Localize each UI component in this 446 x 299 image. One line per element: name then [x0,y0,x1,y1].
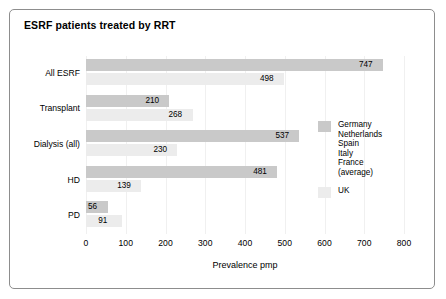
x-axis-title: Prevalence pmp [86,260,404,270]
x-axis-tick-label: 800 [397,238,411,248]
category-label: Dialysis (all) [14,139,80,149]
x-axis-tick-label: 0 [84,238,89,248]
chart-figure: ESRF patients treated by RRT 74749821026… [0,0,446,299]
x-axis-tick-label: 400 [238,238,252,248]
chart-legend: GermanyNetherlandsSpainItalyFrance(avera… [318,120,428,206]
legend-label-group: GermanyNetherlandsSpainItalyFrance(avera… [338,120,382,178]
legend-label-group: UK [338,186,349,196]
bar[interactable] [86,166,277,178]
legend-entry[interactable]: GermanyNetherlandsSpainItalyFrance(avera… [318,120,428,178]
bar-value-label: 481 [253,166,267,178]
legend-label: Germany [338,120,382,130]
legend-label: Italy [338,149,382,159]
legend-label: Netherlands [338,130,382,140]
bar-value-label: 268 [169,109,183,121]
bar-value-label: 139 [117,180,131,192]
bar[interactable] [86,180,141,192]
category-label: HD [14,175,80,185]
legend-entry[interactable]: UK [318,186,428,198]
category-label: PD [14,210,80,220]
bar-value-label: 537 [275,130,289,142]
x-axis-tick-label: 100 [119,238,133,248]
bar[interactable] [86,73,284,85]
legend-label: Spain [338,139,382,149]
legend-label: (average) [338,168,382,178]
bar-value-label: 230 [153,144,167,156]
category-label: Transplant [14,103,80,113]
page-title: ESRF patients treated by RRT [24,19,176,31]
legend-swatch-icon [318,121,331,132]
legend-label: France [338,158,382,168]
x-axis-tick-label: 500 [278,238,292,248]
bar-value-label: 210 [145,95,159,107]
bar[interactable] [86,130,299,142]
bar-value-label: 747 [359,59,373,71]
x-axis-tick-label: 200 [158,238,172,248]
x-axis-tick-label: 700 [357,238,371,248]
bar-value-label: 498 [260,73,274,85]
legend-swatch-icon [318,187,331,198]
bar-group: 747498 [86,56,404,92]
x-axis-tick-label: 600 [317,238,331,248]
bar[interactable] [86,59,383,71]
legend-label: UK [338,186,349,196]
bar-value-label: 56 [88,201,97,213]
category-axis-labels: All ESRFTransplantDialysis (all)HDPD [14,56,80,234]
category-label: All ESRF [14,68,80,78]
bar-value-label: 91 [98,215,107,227]
x-axis-tick-label: 300 [198,238,212,248]
x-axis-ticks: 0100200300400500600700800 [86,238,404,252]
